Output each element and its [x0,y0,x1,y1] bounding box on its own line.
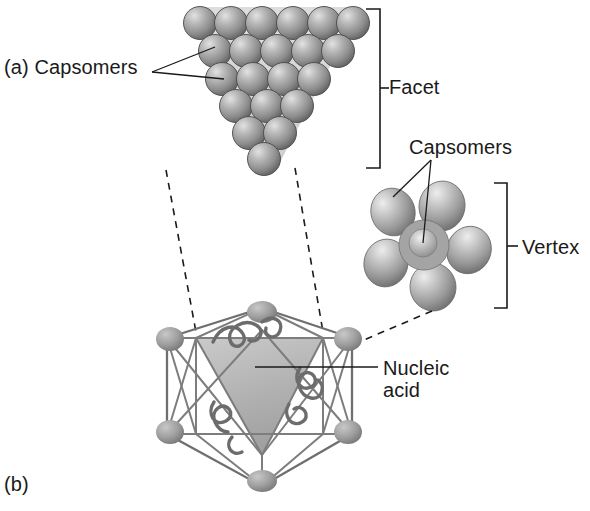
facet-label: Facet [389,76,440,98]
vertex-to-capsid-connector [352,311,432,345]
nucleic-acid-label: Nucleic acid [383,357,475,402]
capsomer-sphere [261,35,294,68]
facet-to-capsid-connectors [166,168,323,332]
nucleic-acid-label-line1: Nucleic [383,357,449,379]
panel-b-label: (b) [4,473,29,495]
vertex-node [247,470,277,492]
vertex-node [156,420,184,444]
capsomer-sphere [292,35,325,68]
nucleic-acid-label-line2: acid [383,379,420,401]
virus-capsid-figure: (a) Capsomers Facet Capsomers Vertex Nuc… [0,0,590,511]
facet-bracket [366,9,389,168]
vertex-capsomers-label: Capsomers [409,136,512,158]
capsomer-sphere [230,35,263,68]
panel-a-capsomers-label: (a) Capsomers [4,56,138,78]
vertex-node [156,327,184,351]
vertex-label: Vertex [522,236,579,258]
vertex-node [334,327,362,351]
icosahedron-capsid [156,301,378,492]
vertex-bracket [494,183,518,308]
capsomer-sphere [248,143,281,176]
vertex-illustration [359,177,499,314]
vertex-node [334,420,362,444]
capsomer-sphere [322,35,355,68]
facet-illustration [184,7,370,176]
